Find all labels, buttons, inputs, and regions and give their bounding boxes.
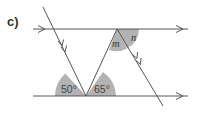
transversal-arrow-right-2 (136, 58, 142, 65)
angle-label-n: n (131, 32, 136, 43)
right-transversal (117, 29, 163, 106)
angle-label-50: 50° (61, 83, 77, 95)
angle-label-65: 65° (94, 83, 110, 95)
geometry-diagram: 50° 65° m n (0, 0, 198, 116)
transversal-arrow-right-1 (132, 52, 138, 59)
angle-label-m: m (112, 38, 120, 49)
